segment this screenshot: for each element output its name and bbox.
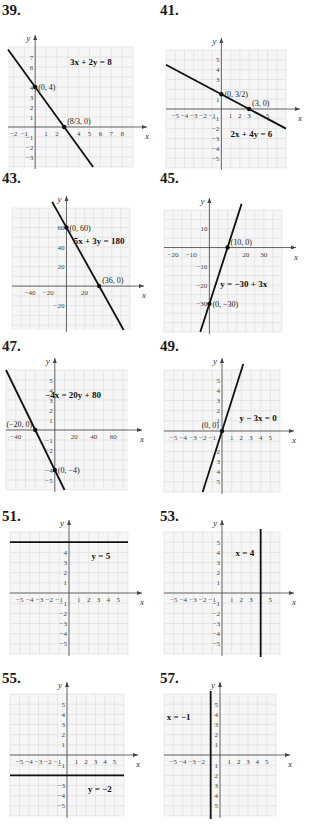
y-tick-label: 4	[215, 711, 219, 719]
y-tick-label: 3	[217, 559, 221, 567]
x-tick-label: 60	[110, 433, 118, 441]
x-tick-label: 4	[259, 434, 263, 442]
y-tick-label: −4	[213, 630, 221, 638]
point-label: (3, 0)	[252, 99, 270, 108]
x-tick-label: −5	[16, 596, 24, 604]
x-tick-label: −10	[186, 251, 197, 259]
y-tick-label: 2	[217, 407, 221, 415]
x-axis-label: x	[139, 597, 144, 607]
y-tick-label: −4	[60, 630, 68, 638]
x-tick-label: −3	[190, 112, 198, 120]
y-tick-label: 1	[217, 579, 221, 587]
y-tick-label: 3	[217, 458, 221, 466]
y-tick-label: −4	[212, 145, 220, 153]
x-tick-label: 5	[113, 758, 117, 766]
x-tick-label: 1	[228, 758, 232, 766]
intercept-point	[247, 107, 251, 111]
equation-label: x = −1	[167, 712, 191, 722]
y-tick-label: 3	[64, 559, 68, 567]
y-tick-label: −5	[212, 155, 220, 163]
y-tick-label: −2	[212, 125, 220, 133]
x-tick-label: −3	[189, 434, 197, 442]
x-tick-label: −3	[189, 596, 197, 604]
intercept-point	[64, 225, 68, 229]
y-tick-label: 4	[217, 468, 221, 476]
x-axis-label: x	[141, 290, 146, 300]
y-tick-label: 3	[62, 721, 66, 729]
y-tick-label: −1	[45, 437, 53, 445]
y-axis-label: y	[45, 356, 50, 366]
y-tick-label: 1	[215, 762, 219, 770]
y-axis-label: y	[212, 356, 217, 366]
y-tick-label: −1	[26, 134, 34, 142]
y-tick-label: 4	[217, 549, 221, 557]
y-axis-arrow-icon	[207, 198, 211, 203]
intercept-point	[33, 85, 37, 89]
y-tick-label: 3	[217, 397, 221, 405]
y-axis-label: y	[212, 518, 217, 528]
x-tick-label: −4	[180, 596, 188, 604]
y-tick-label: −1	[60, 600, 68, 608]
plot-svg: xy−5−4−3−2−112345543212345(0, 0)y − 3x =…	[160, 338, 315, 505]
equation-label: 2x + 4y = 6	[231, 129, 273, 139]
y-tick-label: 2	[215, 731, 219, 739]
x-tick-label: −5	[170, 758, 178, 766]
y-tick-label: 40	[57, 244, 65, 252]
point-label: (0, 4)	[38, 83, 56, 92]
graph-39: 39.xy−2−11245678764321−1−2−3(0, 4)(8/3, …	[2, 2, 159, 169]
x-tick-label: 4	[103, 758, 107, 766]
point-label: (0, 0)	[202, 421, 220, 430]
x-tick-label: −2	[199, 434, 207, 442]
y-tick-label: 2	[62, 731, 66, 739]
y-tick-label: −30	[196, 300, 207, 308]
y-tick-label: 3	[216, 76, 220, 84]
y-tick-label: 5	[216, 56, 220, 64]
x-tick-label: −1	[209, 434, 217, 442]
y-axis-arrow-icon	[53, 358, 57, 363]
x-tick-label: 1	[229, 112, 233, 120]
x-tick-label: −5	[172, 112, 180, 120]
y-tick-label: −2	[213, 610, 221, 618]
y-axis-arrow-icon	[218, 682, 222, 687]
x-tick-label: 3	[97, 596, 101, 604]
x-tick-label: 20	[71, 433, 79, 441]
x-tick-label: 2	[55, 130, 59, 138]
y-tick-label: 60	[57, 224, 65, 232]
x-tick-label: −4	[179, 758, 187, 766]
y-tick-label: −3	[213, 620, 221, 628]
y-axis-label: y	[59, 518, 64, 528]
y-axis-label: y	[210, 680, 215, 690]
x-tick-label: 3	[246, 758, 250, 766]
intercept-point	[97, 284, 101, 288]
x-tick-label: 3	[247, 112, 251, 120]
y-tick-label: −3	[26, 154, 34, 162]
x-tick-label: −20	[168, 251, 179, 259]
y-tick-label: 1	[215, 741, 219, 749]
x-tick-label: −2	[44, 758, 52, 766]
x-tick-label: 1	[77, 596, 81, 604]
y-tick-label: −10	[196, 263, 207, 271]
y-tick-label: −1	[58, 762, 66, 770]
y-tick-label: −3	[58, 782, 66, 790]
x-tick-label: 3	[249, 434, 253, 442]
x-tick-label: 4	[256, 758, 260, 766]
y-tick-label: −5	[60, 640, 68, 648]
y-tick-label: −2	[60, 610, 68, 618]
y-tick-label: 5	[49, 377, 53, 385]
point-label: (−20, 0)	[6, 420, 32, 429]
y-axis-label: y	[211, 36, 216, 46]
equation-label: x = 4	[236, 548, 255, 558]
plot-svg: xy−20−10203010−10−20−30(10, 0)(0, −30)y …	[160, 170, 315, 337]
equation-label: y = 5	[92, 551, 111, 561]
x-axis-arrow-icon	[291, 246, 296, 250]
point-label: (0, 3/2)	[224, 90, 248, 99]
x-axis-label: x	[297, 113, 302, 123]
graph-43: 43.xy−40−2020604020−20(0, 60)(36, 0)5x +…	[2, 170, 159, 337]
y-tick-label: 6	[30, 64, 34, 72]
equation-label: y − 3x = 0	[239, 413, 277, 423]
x-tick-label: −2	[199, 596, 207, 604]
x-tick-label: 4	[107, 596, 111, 604]
x-tick-label: 2	[87, 596, 91, 604]
x-tick-label: 5	[116, 596, 120, 604]
x-tick-label: 2	[238, 112, 242, 120]
